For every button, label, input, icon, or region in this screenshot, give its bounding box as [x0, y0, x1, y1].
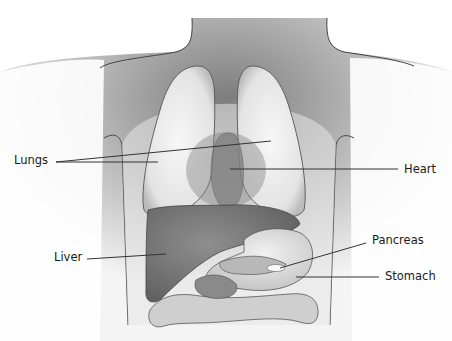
label-lungs: Lungs — [14, 155, 48, 167]
heart — [186, 132, 266, 208]
anatomy-diagram: Lungs Heart Liver Pancreas Stomach — [0, 0, 452, 341]
label-liver: Liver — [54, 252, 82, 264]
label-pancreas: Pancreas — [372, 235, 424, 247]
torso-illustration — [0, 0, 452, 341]
label-stomach: Stomach — [385, 271, 436, 283]
label-heart: Heart — [404, 164, 436, 176]
